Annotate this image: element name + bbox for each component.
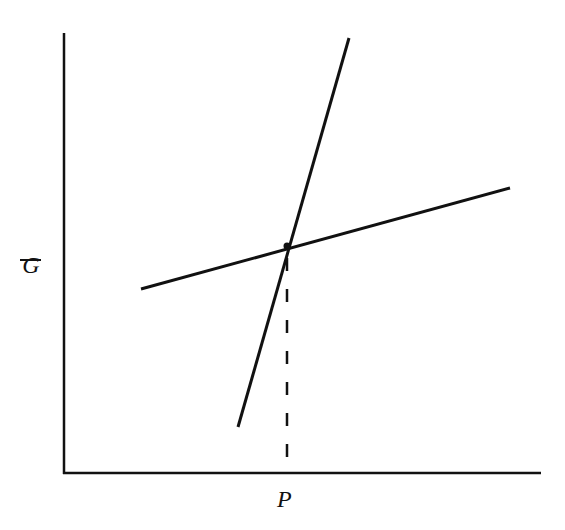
diagram-canvas	[0, 0, 565, 530]
intersection-point	[284, 243, 291, 250]
y-axis-label-text: G	[22, 252, 39, 278]
x-axis-label: P	[277, 486, 292, 513]
y-axis-label: G	[18, 252, 44, 279]
steep-line	[238, 38, 349, 427]
overbar	[20, 259, 41, 261]
flat-line	[141, 188, 510, 289]
